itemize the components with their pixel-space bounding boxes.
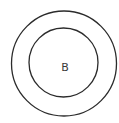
center-label: B	[61, 61, 69, 74]
concentric-circles-diagram: B	[0, 0, 119, 123]
